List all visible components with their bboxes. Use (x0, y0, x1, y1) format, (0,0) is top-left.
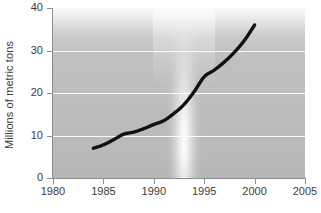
plot-area (53, 8, 305, 178)
x-tick-label-1980: 1980 (33, 185, 73, 197)
x-tick-label-1990: 1990 (134, 185, 174, 197)
y-tick-label-20: 20 (31, 86, 43, 98)
y-tick-40 (47, 8, 53, 9)
x-tick-label-1985: 1985 (83, 185, 123, 197)
x-tick-label-1995: 1995 (184, 185, 224, 197)
x-tick-2005 (305, 178, 306, 184)
caption-clipped (8, 205, 308, 213)
y-axis-title-label: Millions of metric tons (3, 41, 15, 149)
x-tick-label-2005: 2005 (285, 185, 321, 197)
x-tick-1980 (53, 178, 54, 184)
y-tick-label-0: 0 (37, 171, 43, 183)
data-series-line (53, 8, 305, 178)
x-axis-line (52, 178, 306, 179)
y-tick-label-40: 40 (31, 1, 43, 13)
x-tick-1985 (103, 178, 104, 184)
y-tick-label-30: 30 (31, 44, 43, 56)
chart-figure: Millions of metric tons 010203040 198019… (0, 0, 321, 213)
y-tick-20 (47, 93, 53, 94)
x-tick-label-2000: 2000 (235, 185, 275, 197)
x-tick-2000 (255, 178, 256, 184)
y-tick-30 (47, 51, 53, 52)
y-tick-10 (47, 136, 53, 137)
x-tick-1995 (204, 178, 205, 184)
y-axis-title: Millions of metric tons (0, 0, 18, 190)
y-tick-label-10: 10 (31, 129, 43, 141)
x-tick-1990 (154, 178, 155, 184)
